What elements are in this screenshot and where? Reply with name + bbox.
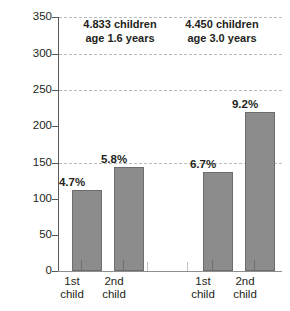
bar-baseline-tick (123, 260, 124, 270)
bar-value-label-group1-2nd: 5.8% (87, 153, 141, 165)
bar-group1-2nd-child[interactable] (114, 167, 144, 271)
y-tick-0 (52, 271, 58, 272)
x-axis-label-group1-2nd: 2nd child (86, 275, 142, 301)
x-axis-label-group2-2nd: 2nd child (217, 275, 273, 301)
bar-baseline-tick (212, 260, 213, 270)
x-label-line1: 2nd (217, 275, 273, 288)
bar-baseline-tick (254, 260, 255, 270)
bar-group1-1st-child[interactable] (72, 190, 102, 271)
y-axis-label-300: 300 (33, 48, 52, 60)
y-axis-label-250: 250 (33, 84, 52, 96)
x-label-line1: 2nd (86, 275, 142, 288)
y-axis-label-350: 350 (33, 11, 52, 23)
bar-group2-2nd-child[interactable] (245, 112, 275, 271)
bar-baseline-tick (81, 260, 82, 270)
y-axis-label-200: 200 (33, 120, 52, 132)
bar-group2-1st-child[interactable] (203, 172, 233, 271)
bar-value-label-group2-2nd: 9.2% (218, 98, 272, 110)
x-axis-line (58, 271, 282, 272)
bar-value-label-group1-1st: 4.7% (45, 176, 99, 188)
y-axis-label-100: 100 (33, 193, 52, 205)
bar-value-label-group2-1st: 6.7% (176, 158, 230, 170)
y-axis-label-150: 150 (33, 157, 52, 169)
plot-area (58, 17, 282, 271)
bar-chart: 350 300 250 200 150 100 50 0 4.833 child… (0, 0, 290, 311)
y-axis-label-50: 50 (39, 229, 52, 241)
x-label-line2: child (217, 288, 273, 301)
x-label-line2: child (86, 288, 142, 301)
